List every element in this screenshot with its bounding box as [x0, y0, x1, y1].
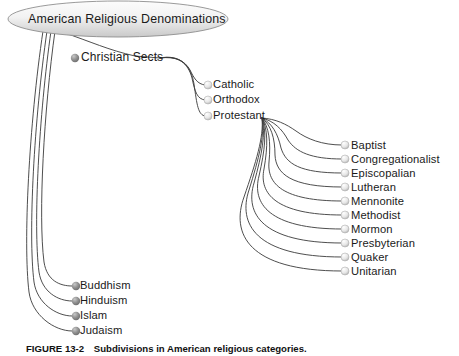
node-label-judaism: Judaism — [80, 324, 122, 336]
node-label-catholic: Catholic — [213, 78, 254, 90]
bullet-quaker[interactable] — [341, 253, 349, 261]
node-label-islam: Islam — [80, 309, 107, 321]
bullet-mormon[interactable] — [341, 225, 349, 233]
bullet-orthodox[interactable] — [204, 96, 212, 104]
bullet-presbyterian[interactable] — [341, 239, 349, 247]
node-label-buddhism: Buddhism — [80, 279, 131, 291]
figure-caption: FIGURE 13-2 Subdivisions in American rel… — [26, 343, 307, 354]
node-label-protestant: Protestant — [213, 109, 265, 121]
mind-map-diagram: American Religious Denominations Christi… — [0, 0, 459, 356]
node-label-orthodox: Orthodox — [213, 93, 260, 105]
node-label-presbyterian: Presbyterian — [351, 237, 415, 249]
figure-caption-number: FIGURE 13-2 — [26, 343, 84, 354]
node-label-hinduism: Hinduism — [80, 294, 127, 306]
node-label-mennonite: Mennonite — [351, 195, 404, 207]
node-label-lutheran: Lutheran — [351, 181, 396, 193]
bullet-catholic[interactable] — [204, 81, 212, 89]
bullet-protestant[interactable] — [204, 112, 212, 120]
node-label-christian-sects: Christian Sects — [81, 51, 163, 63]
bullet-episcopalian[interactable] — [341, 169, 349, 177]
node-label-unitarian: Unitarian — [351, 265, 397, 277]
bullet-methodist[interactable] — [341, 211, 349, 219]
node-label-mormon: Mormon — [351, 223, 393, 235]
node-label-congregationalist: Congregationalist — [351, 153, 440, 165]
bullet-congregationalist[interactable] — [341, 155, 349, 163]
bullet-judaism[interactable] — [72, 327, 80, 335]
bullet-buddhism[interactable] — [72, 282, 80, 290]
node-label-baptist: Baptist — [351, 139, 386, 151]
figure-caption-text: Subdivisions in American religious categ… — [94, 343, 307, 354]
node-label-quaker: Quaker — [351, 251, 388, 263]
bullet-christian-sects[interactable] — [71, 54, 79, 62]
node-label-methodist: Methodist — [351, 209, 400, 221]
bullet-hinduism[interactable] — [72, 297, 80, 305]
bullet-unitarian[interactable] — [341, 267, 349, 275]
bullet-lutheran[interactable] — [341, 183, 349, 191]
bullet-islam[interactable] — [72, 312, 80, 320]
node-label-episcopalian: Episcopalian — [351, 167, 416, 179]
bullet-baptist[interactable] — [341, 141, 349, 149]
bullet-mennonite[interactable] — [341, 197, 349, 205]
